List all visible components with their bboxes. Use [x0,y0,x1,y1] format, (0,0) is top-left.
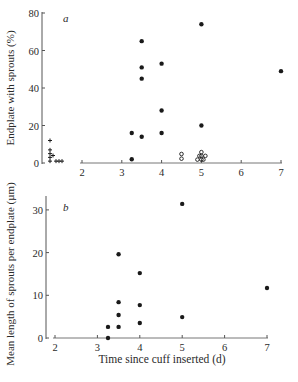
data-point-filled [199,22,203,26]
data-point-filled [130,157,134,161]
x-tick-label: 6 [239,167,244,178]
data-point-open [180,157,184,161]
figure: 020406080 234567 a Endplate with sprouts… [0,0,298,382]
panel-label-b: b [63,201,69,213]
x-tick-label: 3 [119,167,124,178]
data-point-open [200,150,204,154]
x-tick-label: 6 [222,342,227,353]
data-point-filled [180,202,184,206]
data-point-filled [116,325,120,329]
x-axis-label: Time since cuff inserted (d) [98,353,225,366]
x-tick-label: 2 [52,342,57,353]
panel-label-a: a [63,12,69,24]
data-point-filled [140,76,144,80]
x-tick-label: 7 [278,167,283,178]
data-point-filled [159,131,163,135]
data-point-filled [199,123,203,127]
y-tick-label: 80 [29,8,40,19]
data-point-filled [265,286,269,290]
y-tick-label: 10 [33,290,44,301]
data-point-filled [138,303,142,307]
data-point-filled [116,252,120,256]
data-point-filled [140,39,144,43]
y-tick-label: 20 [29,121,40,132]
y-ticks-b: 0102030 [33,205,50,344]
data-point-filled [159,61,163,65]
data-point-filled [140,135,144,139]
y-tick-label: 40 [29,83,40,94]
y-tick-label: 0 [38,333,43,344]
data-point-filled [106,325,110,329]
data-point-open [180,152,184,156]
y-ticks-a: 020406080 [29,8,46,169]
x-tick-label: 4 [159,167,165,178]
x-tick-label: 3 [95,342,100,353]
data-point-filled [279,69,283,73]
data-points-a [48,22,283,163]
data-point-filled [116,300,120,304]
y-tick-label: 20 [33,248,44,259]
data-point-open [196,158,200,162]
x-tick-label: 5 [199,167,204,178]
data-point-open [204,154,208,158]
y-tick-label: 60 [29,46,40,57]
x-tick-label: 7 [264,342,269,353]
x-tick-label: 5 [180,342,185,353]
data-point-filled [138,321,142,325]
data-point-filled [159,108,163,112]
panel-a: 020406080 234567 a Endplate with sprouts… [4,8,284,178]
data-point-filled [138,271,142,275]
data-point-filled [106,336,110,340]
data-point-filled [180,315,184,319]
data-point-filled [140,65,144,69]
data-point-filled [116,313,120,317]
y-axis-label-b: Mean length of sprouts per endplate (µm) [4,182,17,366]
panel-b: 0102030 234567 b Mean length of sprouts … [4,182,270,366]
data-point-filled [130,131,134,135]
y-axis-label-a: Endplate with sprouts (%) [4,30,17,146]
x-tick-label: 2 [79,167,84,178]
y-tick-label: 30 [33,205,44,216]
x-tick-label: 4 [137,342,143,353]
y-tick-label: 0 [34,158,39,169]
data-points-b [106,202,269,340]
